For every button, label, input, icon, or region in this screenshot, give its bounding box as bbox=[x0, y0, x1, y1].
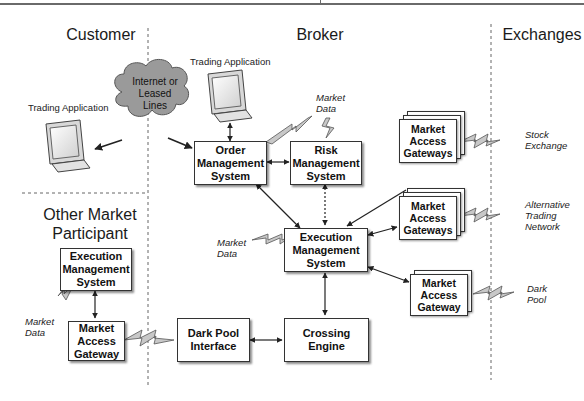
dark-pool-label: Dark Pool bbox=[527, 283, 547, 305]
bolt-rms-market-data bbox=[322, 118, 334, 138]
bolt-dark-pool bbox=[473, 286, 514, 300]
section-broker: Broker bbox=[285, 25, 355, 44]
gateway-dark-label: Market Access Gateway bbox=[410, 274, 468, 316]
customer-terminal-icon bbox=[46, 120, 90, 172]
market-data-label-broker-ems: Market Data bbox=[217, 237, 246, 259]
cloud-label: Internet or Leased Lines bbox=[122, 76, 188, 112]
bolt-gateway-darkpool bbox=[124, 330, 174, 346]
stock-exchange-label: Stock Exchange bbox=[525, 129, 567, 151]
gateway-stack-dark: Market Access Gateway bbox=[410, 270, 474, 320]
section-exchanges: Exchanges bbox=[500, 25, 584, 44]
crossing-engine-box: Crossing Engine bbox=[284, 318, 369, 362]
section-other-participant: Other Market Participant bbox=[30, 205, 150, 243]
gateway-alternative-label: Market Access Gateways bbox=[399, 196, 457, 240]
gateway-stock-to-ems-arrow bbox=[347, 190, 406, 226]
section-customer: Customer bbox=[46, 25, 156, 44]
gateway-stack-alternative: Market Access Gateways bbox=[399, 188, 467, 240]
broker-trading-app-label: Trading Application bbox=[190, 56, 270, 67]
customer-trading-app-label: Trading Application bbox=[28, 102, 108, 113]
order-management-system-box: Order Management System bbox=[194, 141, 267, 185]
market-data-label-other: Market Data bbox=[25, 316, 54, 338]
dark-pool-interface-box: Dark Pool Interface bbox=[177, 318, 250, 362]
gateway-stack-stock: Market Access Gateways bbox=[399, 111, 467, 163]
cloud-to-customer-arrow bbox=[95, 140, 122, 149]
alternative-trading-network-label: Alternative Trading Network bbox=[525, 199, 570, 232]
oms-ems-arrow bbox=[256, 184, 300, 228]
ems-gateway-dark-arrow bbox=[368, 267, 409, 282]
market-data-label-broker-top: Market Data bbox=[316, 92, 345, 114]
risk-management-system-box: Risk Management System bbox=[290, 141, 362, 185]
ems-gateway-alt-arrow bbox=[368, 227, 397, 235]
broker-terminal-icon bbox=[208, 70, 252, 122]
other-market-access-gateway-box: Market Access Gateway bbox=[68, 321, 125, 361]
execution-management-system-box: Execution Management System bbox=[284, 228, 368, 272]
cloud-to-oms-arrow bbox=[168, 138, 192, 148]
other-execution-management-system-box: Execution Management System bbox=[60, 248, 132, 291]
bolt-oms-market-data bbox=[266, 116, 312, 144]
gateway-stock-label: Market Access Gateways bbox=[399, 119, 457, 163]
